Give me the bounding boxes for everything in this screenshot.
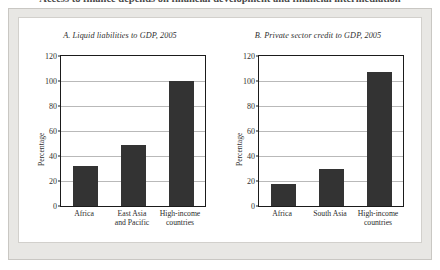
panel-a-plot-area: 020406080100120 [60,55,206,207]
y-axis-tick-label: 0 [53,202,57,211]
figure-title-strip: Access to finance depends on financial d… [0,0,440,6]
y-axis-tick-label: 40 [49,152,57,161]
y-axis-tick-label: 20 [49,177,57,186]
y-axis-tick-mark [256,131,260,132]
bar [319,169,344,207]
x-axis-category-label: High-income countries [358,209,399,227]
y-axis-tick-mark [256,206,260,207]
y-axis-tick-mark [58,181,62,182]
figure-frame: A. Liquid liabilities to GDP, 2005 Perce… [8,8,432,260]
y-axis-tick-mark [256,81,260,82]
x-axis-category-label: East Asia and Pacific [115,209,149,227]
bar [271,184,296,207]
y-axis-tick-label: 100 [45,77,57,86]
panel-a-y-axis-label: Percentage [37,133,46,166]
y-axis-tick-label: 80 [49,102,57,111]
x-axis-category-label: High-income countries [160,209,201,227]
y-axis-tick-mark [58,131,62,132]
figure-title: Access to finance depends on financial d… [39,0,400,4]
y-axis-tick-label: 120 [45,52,57,61]
chart-panel-a: A. Liquid liabilities to GDP, 2005 Perce… [19,18,221,244]
chart-panel-b: B. Private sector credit to GDP, 2005 Pe… [217,18,419,244]
y-axis-tick-label: 20 [247,177,255,186]
bar [121,145,146,206]
y-axis-tick-label: 40 [247,152,255,161]
y-axis-tick-mark [58,56,62,57]
bar [367,72,392,206]
y-axis-tick-label: 100 [243,77,255,86]
bar [73,166,98,206]
y-axis-tick-label: 120 [243,52,255,61]
y-axis-tick-mark [256,106,260,107]
y-axis-tick-label: 80 [247,102,255,111]
y-axis-tick-mark [58,106,62,107]
y-axis-tick-mark [256,156,260,157]
y-axis-tick-mark [256,56,260,57]
panel-b-plot-area: 020406080100120 [258,55,404,207]
x-axis-category-label: Africa [74,209,94,218]
bar [169,81,194,206]
y-axis-tick-mark [58,81,62,82]
x-axis-category-label: South Asia [313,209,347,218]
x-axis-category-label: Africa [272,209,292,218]
y-axis-tick-mark [58,156,62,157]
y-axis-tick-label: 0 [251,202,255,211]
y-axis-tick-mark [58,206,62,207]
figure-inner-panel: A. Liquid liabilities to GDP, 2005 Perce… [18,17,422,243]
panel-a-title: A. Liquid liabilities to GDP, 2005 [19,31,221,40]
panel-b-y-axis-label: Percentage [235,133,244,166]
y-axis-tick-label: 60 [247,127,255,136]
panel-b-title: B. Private sector credit to GDP, 2005 [217,31,419,40]
y-axis-tick-label: 60 [49,127,57,136]
y-axis-tick-mark [256,181,260,182]
